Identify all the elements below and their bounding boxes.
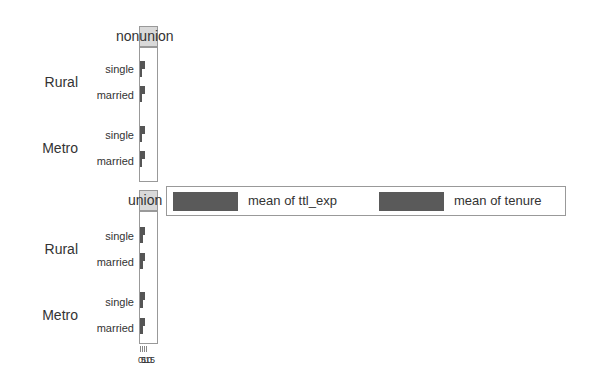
bar-ttl-exp bbox=[140, 227, 145, 235]
x-tick bbox=[140, 346, 141, 352]
legend-label-tenure: mean of tenure bbox=[454, 193, 541, 208]
panel-title-nonunion: nonunion bbox=[116, 28, 174, 44]
legend-swatch-tenure bbox=[379, 192, 444, 211]
panel-title-union: union bbox=[128, 192, 162, 208]
bar-tenure bbox=[140, 69, 142, 77]
x-tick bbox=[142, 346, 143, 352]
category-label: single bbox=[84, 296, 134, 308]
bar-ttl-exp bbox=[140, 318, 145, 326]
bar-tenure bbox=[140, 134, 142, 142]
bar-ttl-exp bbox=[140, 151, 145, 159]
bar-ttl-exp bbox=[140, 292, 145, 300]
bar-tenure bbox=[140, 235, 143, 243]
bar-tenure bbox=[140, 261, 143, 269]
x-tick bbox=[144, 346, 145, 352]
bar-tenure bbox=[140, 159, 142, 167]
bar-ttl-exp bbox=[140, 86, 145, 94]
legend-label-ttl-exp: mean of ttl_exp bbox=[248, 193, 337, 208]
bar-tenure bbox=[140, 300, 143, 308]
group-label-rural: Rural bbox=[18, 241, 78, 257]
category-label: married bbox=[84, 256, 134, 268]
category-label: single bbox=[84, 129, 134, 141]
category-label: married bbox=[84, 322, 134, 334]
legend-swatch-ttl-exp bbox=[173, 192, 238, 211]
bar-tenure bbox=[140, 94, 142, 102]
bar-ttl-exp bbox=[140, 253, 145, 261]
category-label: single bbox=[84, 63, 134, 75]
category-label: single bbox=[84, 230, 134, 242]
category-label: married bbox=[84, 89, 134, 101]
group-label-rural: Rural bbox=[18, 74, 78, 90]
x-tick bbox=[146, 346, 147, 352]
x-tick-label: 15 bbox=[145, 355, 155, 365]
group-label-metro: Metro bbox=[18, 307, 78, 323]
category-label: married bbox=[84, 155, 134, 167]
legend: mean of ttl_exp mean of tenure bbox=[166, 186, 566, 216]
bar-ttl-exp bbox=[140, 126, 145, 134]
bar-ttl-exp bbox=[140, 61, 145, 69]
bar-tenure bbox=[140, 326, 143, 334]
group-label-metro: Metro bbox=[18, 140, 78, 156]
